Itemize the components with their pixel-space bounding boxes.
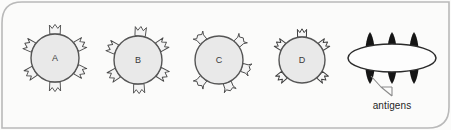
cell-a-label: A xyxy=(52,53,58,63)
cell-c-label: C xyxy=(216,55,223,65)
diagram-canvas: A B C xyxy=(0,0,451,130)
antigens-label: antigens xyxy=(373,100,412,111)
cell-d-label: D xyxy=(299,55,306,65)
cell-b-label: B xyxy=(135,55,141,65)
pathogen-body xyxy=(348,44,436,72)
figure-container: A B C xyxy=(0,0,451,130)
